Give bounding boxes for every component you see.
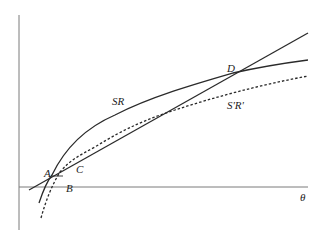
sr-curve-label: SR	[112, 96, 124, 107]
straight-line	[29, 33, 308, 190]
point-a-label: A	[44, 168, 51, 179]
point-b-label: B	[66, 183, 73, 194]
point-d-label: D	[227, 63, 235, 74]
diagram-svg	[0, 0, 325, 239]
sr-curve	[39, 60, 308, 203]
sprp-curve	[41, 76, 308, 218]
theta-axis-label: θ	[300, 192, 305, 203]
point-c-label: C	[76, 164, 83, 175]
sprp-curve-label: S'R'	[227, 100, 244, 111]
diagram-canvas: A B C D SR S'R' θ	[0, 0, 325, 239]
